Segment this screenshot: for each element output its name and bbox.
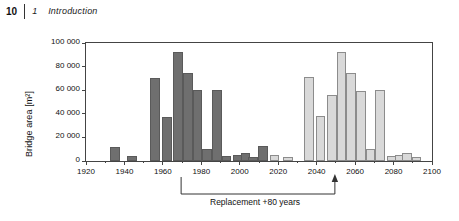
bar-chart-figure: Bridge area [m²] 020 00040 00060 00080 0…: [0, 24, 459, 221]
x-tick-mark: [105, 161, 106, 163]
x-tick-label: 1940: [110, 167, 138, 176]
x-tick-mark: [201, 161, 202, 165]
bar-projected-2048: [327, 95, 337, 161]
bar-historical-1944: [127, 156, 137, 161]
x-tick-label: 2060: [341, 167, 369, 176]
bars-layer: [86, 43, 432, 161]
bar-historical-2012: [258, 146, 268, 161]
x-tick-label: 2020: [264, 167, 292, 176]
plot-area: 020 00040 00060 00080 000100 00019201940…: [85, 42, 433, 162]
x-tick-mark: [259, 161, 260, 163]
y-tick-mark: [82, 43, 86, 44]
x-tick-mark: [432, 161, 433, 165]
annotation-label: Replacement +80 years: [0, 197, 459, 207]
y-tick-label: 40 000: [56, 108, 80, 117]
y-axis-label: Bridge area [m²]: [22, 64, 36, 184]
bar-projected-2087: [402, 153, 412, 161]
bar-projected-2053: [337, 52, 347, 161]
page-header: 10 1 Introduction: [6, 2, 98, 20]
bar-historical-1956: [150, 78, 160, 161]
x-tick-mark: [239, 161, 240, 165]
bar-projected-2073: [375, 90, 385, 161]
bar-historical-2007: [248, 157, 258, 161]
y-tick-mark: [82, 66, 86, 67]
y-tick-label: 80 000: [56, 61, 80, 70]
x-tick-mark: [220, 161, 221, 163]
y-tick-label: 60 000: [56, 84, 80, 93]
bar-projected-2068: [366, 149, 376, 161]
chapter-number: 1: [32, 6, 37, 16]
x-tick-mark: [162, 161, 163, 165]
page-number: 10: [6, 6, 17, 17]
x-tick-mark: [316, 161, 317, 165]
header-divider: [24, 4, 25, 19]
x-tick-mark: [143, 161, 144, 163]
bar-projected-2036: [304, 77, 314, 161]
bar-historical-1988: [212, 90, 222, 161]
x-tick-mark: [355, 161, 356, 165]
x-tick-label: 1980: [187, 167, 215, 176]
x-tick-mark: [374, 161, 375, 163]
x-tick-label: 2100: [418, 167, 446, 176]
bar-projected-2025: [283, 157, 293, 161]
x-tick-mark: [412, 161, 413, 163]
y-tick-label: 0: [76, 155, 80, 164]
x-tick-mark: [124, 161, 125, 165]
bar-historical-1983: [202, 149, 212, 161]
x-tick-label: 2040: [303, 167, 331, 176]
x-tick-label: 1960: [149, 167, 177, 176]
bar-historical-1978: [193, 90, 203, 161]
x-tick-mark: [297, 161, 298, 163]
y-tick-mark: [82, 113, 86, 114]
x-tick-mark: [393, 161, 394, 165]
y-axis-label-text: Bridge area [m²]: [24, 91, 34, 157]
x-tick-mark: [86, 161, 87, 165]
bar-projected-2058: [346, 73, 356, 162]
chapter-title: Introduction: [48, 6, 97, 16]
bar-historical-1993: [222, 156, 232, 161]
x-tick-label: 1920: [72, 167, 100, 176]
up-arrow-icon: [332, 174, 338, 182]
x-tick-mark: [278, 161, 279, 165]
bar-historical-1935: [110, 147, 120, 161]
x-tick-label: 2000: [226, 167, 254, 176]
y-tick-mark: [82, 90, 86, 91]
annotation-bracket: [181, 177, 335, 194]
y-tick-mark: [82, 137, 86, 138]
x-tick-label: 2080: [380, 167, 408, 176]
bar-historical-1968: [173, 52, 183, 161]
bar-projected-2042: [316, 116, 326, 161]
bar-historical-1973: [183, 73, 193, 162]
bar-historical-1962: [162, 117, 172, 161]
y-tick-label: 100 000: [51, 37, 80, 46]
x-tick-mark: [335, 161, 336, 163]
bar-projected-2063: [356, 91, 366, 161]
y-tick-label: 20 000: [56, 131, 80, 140]
x-tick-mark: [182, 161, 183, 163]
